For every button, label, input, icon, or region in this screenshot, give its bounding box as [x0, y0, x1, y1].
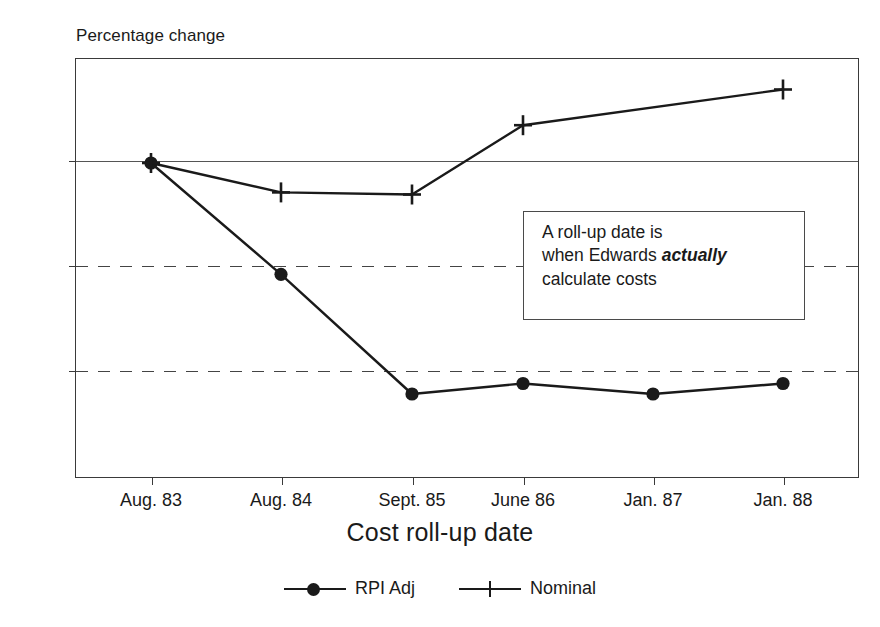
y-tick-mark-m10 — [69, 371, 76, 372]
legend-item-rpi-adj[interactable]: RPI Adj — [284, 578, 415, 599]
annotation-roll-up-date-note: A roll-up date is when Edwards actually … — [523, 211, 805, 320]
annotation-line-2-prefix: when Edwards — [542, 245, 662, 265]
annotation-emphasis: actually — [662, 245, 727, 265]
x-tick-mark-2 — [413, 477, 414, 485]
x-tick-label-4: Jan. 87 — [623, 490, 682, 511]
x-tick-label-2: Sept. 85 — [378, 490, 445, 511]
x-tick-mark-1 — [282, 477, 283, 485]
x-tick-mark-0 — [152, 477, 153, 485]
x-axis-title: Cost roll-up date — [0, 518, 880, 547]
y-axis-title: Percentage change — [76, 26, 225, 46]
annotation-line-3: calculate costs — [542, 268, 804, 291]
plus-marker-icon — [459, 581, 521, 597]
legend-item-nominal[interactable]: Nominal — [459, 578, 596, 599]
gridline-minus10 — [76, 371, 858, 372]
chart-container: Percentage change 5 0 -5 -10 -15 A roll-… — [0, 0, 880, 627]
gridline-zero — [76, 161, 858, 162]
annotation-line-1: A roll-up date is — [542, 221, 804, 244]
x-tick-mark-5 — [784, 477, 785, 485]
x-tick-label-0: Aug. 83 — [120, 490, 182, 511]
chart-legend: RPI Adj Nominal — [0, 578, 880, 599]
legend-label-nominal: Nominal — [530, 578, 596, 599]
x-tick-label-5: Jan. 88 — [753, 490, 812, 511]
y-tick-mark-m5 — [69, 266, 76, 267]
x-tick-mark-4 — [654, 477, 655, 485]
x-tick-mark-3 — [524, 477, 525, 485]
annotation-line-2: when Edwards actually — [542, 244, 804, 267]
filled-circle-marker-icon — [284, 581, 346, 597]
legend-label-rpi-adj: RPI Adj — [355, 578, 415, 599]
x-tick-label-1: Aug. 84 — [250, 490, 312, 511]
y-tick-mark-0 — [69, 161, 76, 162]
x-tick-label-3: June 86 — [491, 490, 555, 511]
